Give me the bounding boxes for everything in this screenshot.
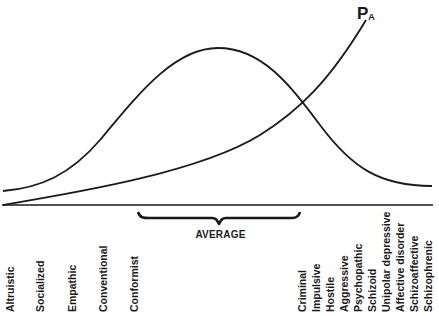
pa-curve-label: PA (357, 4, 375, 24)
trait-label: Schizoid (367, 269, 378, 312)
trait-label: Unipolar depressive (381, 212, 392, 312)
average-label-text: AVERAGE (195, 229, 245, 240)
bell-curve (3, 48, 432, 191)
trait-label: Impulsive (311, 264, 322, 312)
trait-label: Schizophrenic (423, 240, 434, 312)
trait-label: Empathic (67, 265, 78, 312)
average-brace (138, 212, 300, 224)
trait-label: Criminal (297, 270, 308, 312)
trait-label: Conventional (98, 245, 109, 312)
trait-label: Aggressive (339, 255, 350, 312)
average-label: AVERAGE (0, 229, 439, 240)
trait-label: Socialized (35, 261, 46, 312)
trait-label: Altruistic (5, 266, 16, 312)
trait-label: Conformist (129, 256, 140, 312)
trait-label: Psychopathic (353, 244, 364, 312)
trait-label: Affective disorder (395, 223, 406, 312)
trait-label: Schizoaffective (409, 236, 420, 312)
trait-label: Hostile (325, 277, 336, 312)
pa-label-sub: A (368, 12, 375, 22)
pa-label-main: P (357, 4, 368, 23)
